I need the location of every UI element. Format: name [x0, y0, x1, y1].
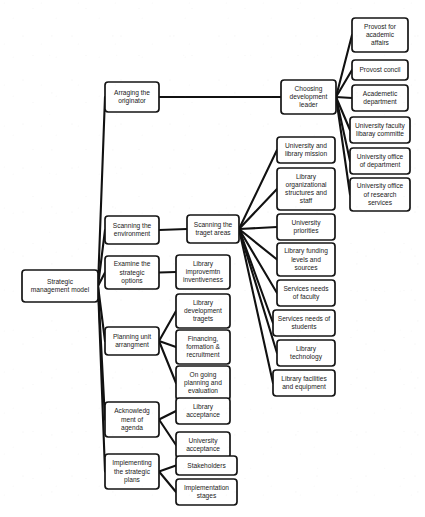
node-m5[interactable]: Financing,formation &recruitment — [176, 330, 230, 364]
connector-l3-to-m3 — [159, 272, 176, 273]
connector-m1-to-r3 — [336, 97, 352, 98]
node-m8[interactable]: Universityacceptance — [176, 432, 230, 458]
node-s4[interactable]: Library fundinglevels andsources — [277, 243, 335, 276]
node-l3[interactable]: Examine thestrategicoptions — [105, 256, 159, 289]
connector-l5-to-m7 — [159, 411, 176, 420]
node-m6[interactable]: On goingplanning andevaluation — [176, 366, 230, 400]
node-s2[interactable]: Libraryorganizationalstructures andstaff — [277, 168, 335, 210]
node-label: University officeof department — [357, 153, 404, 169]
node-m10[interactable]: Implementationstages — [176, 479, 237, 505]
connector-l6-to-m10 — [159, 472, 176, 493]
node-s6[interactable]: Services needs ofstudents — [273, 310, 335, 336]
node-label: Provost concil — [359, 66, 401, 73]
node-label: Universityacceptance — [186, 437, 220, 453]
node-r1[interactable]: Provost foracademicaffairs — [352, 18, 408, 52]
connector-m2-to-s7 — [239, 229, 277, 353]
node-m4[interactable]: Librarydevelopmenttragets — [176, 294, 230, 328]
node-r3[interactable]: Academeticdepartment — [352, 85, 408, 111]
node-label: Financing,formation &recruitment — [186, 335, 220, 358]
node-label: Academeticdepartment — [363, 90, 398, 106]
node-l1[interactable]: Arraging theoriginator — [105, 82, 159, 112]
node-m2[interactable]: Scanning thetraget areas — [187, 215, 239, 243]
connector-l5-to-m8 — [159, 420, 176, 446]
node-label: Scanning thetraget areas — [194, 221, 233, 237]
node-s8[interactable]: Library facilitiesand equipment — [273, 370, 335, 396]
connector-l4-to-m6 — [159, 341, 176, 383]
node-l5[interactable]: Acknowledgment ofagenda — [105, 402, 159, 437]
node-label: Library facilitiesand equipment — [281, 375, 327, 391]
node-s3[interactable]: Universitypriorities — [277, 214, 335, 240]
node-m1[interactable]: Choosingdevelopmentleader — [281, 80, 336, 114]
node-r4[interactable]: University facultylibaray committe — [350, 117, 410, 143]
node-r6[interactable]: University officeof researchservices — [350, 178, 410, 211]
node-label: Planning unitarrangment — [113, 333, 151, 349]
connector-m2-to-s2 — [239, 189, 277, 229]
node-r2[interactable]: Provost concil — [352, 60, 408, 80]
connector-m2-to-s1 — [239, 150, 277, 229]
strategic-management-model-diagram: Strategicmanagement modelArraging theori… — [0, 0, 425, 517]
node-l2[interactable]: Scanning theenvironment — [105, 216, 159, 244]
node-l4[interactable]: Planning unitarrangment — [105, 327, 159, 355]
connector-m2-to-s3 — [239, 227, 277, 229]
connector-l2-to-m2 — [159, 229, 187, 230]
node-m9[interactable]: Stakeholders — [176, 456, 237, 475]
node-s7[interactable]: Librarytechnology — [277, 340, 335, 366]
node-label: University andlibrary mission — [285, 142, 327, 158]
connector-l6-to-m9 — [159, 466, 176, 472]
diagram-canvas: Strategicmanagement modelArraging theori… — [0, 0, 425, 517]
node-layer: Strategicmanagement modelArraging theori… — [22, 18, 410, 505]
node-l6[interactable]: Implementingthe strategicplans — [105, 454, 159, 489]
connector-l4-to-m4 — [159, 311, 176, 341]
node-label: University facultylibaray committe — [355, 122, 406, 138]
node-label: Arraging theoriginator — [114, 89, 150, 105]
node-label: Universitypriorities — [292, 219, 322, 235]
node-s1[interactable]: University andlibrary mission — [277, 137, 335, 163]
figure-caption — [105, 503, 345, 517]
node-label: Stakeholders — [187, 461, 226, 468]
node-m7[interactable]: Libraryacceptance — [176, 398, 230, 424]
node-label: Scanning theenvironment — [113, 222, 152, 237]
node-root[interactable]: Strategicmanagement model — [22, 270, 98, 302]
node-m3[interactable]: Libraryimprovemtninventiveness — [176, 255, 230, 289]
node-s5[interactable]: Services needsof faculty — [277, 280, 335, 306]
connector-m1-to-r1 — [336, 35, 352, 97]
node-r5[interactable]: University officeof department — [350, 148, 410, 174]
